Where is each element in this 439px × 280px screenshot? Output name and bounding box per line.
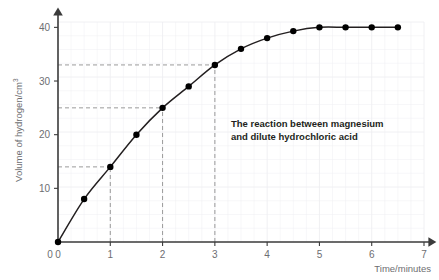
y-tick-label: 20 (39, 129, 51, 140)
x-tick-label: 4 (264, 249, 270, 260)
y-tick-label: 40 (39, 22, 51, 33)
x-tick-label: 3 (212, 249, 218, 260)
data-point-marker (290, 28, 296, 34)
x-tick-label: 6 (369, 249, 375, 260)
y-axis-label: Volume of hydrogen/cm (13, 82, 24, 182)
data-point-marker (81, 196, 87, 202)
x-tick-label: 7 (421, 249, 427, 260)
y-axis-label-superscript: 3 (12, 78, 19, 82)
x-tick-label: 0 (55, 249, 61, 260)
origin-label: 0 (47, 249, 53, 260)
x-tick-label: 5 (317, 249, 323, 260)
y-tick-label: 30 (39, 76, 51, 87)
annotation-line-2: and dilute hydrochloric acid (231, 131, 358, 142)
data-point-marker (395, 24, 401, 30)
x-tick-label: 1 (108, 249, 114, 260)
annotation-line-1: The reaction between magnesium (231, 118, 384, 129)
data-point-marker (238, 46, 244, 52)
y-tick-label: 10 (39, 183, 51, 194)
x-tick-label: 2 (160, 249, 166, 260)
volume-of-hydrogen-vs-time-line-chart: 01234567102030400 Time/minutes Volume of… (0, 0, 439, 280)
data-point-marker (55, 239, 61, 245)
y-axis-label-group: Volume of hydrogen/cm 3 (12, 78, 24, 182)
chart-container: 01234567102030400 Time/minutes Volume of… (0, 0, 439, 280)
x-axis-label: Time/minutes (374, 263, 431, 274)
data-point-marker (186, 83, 192, 89)
data-point-marker (316, 24, 322, 30)
data-point-marker (342, 24, 348, 30)
data-point-marker (264, 35, 270, 41)
data-point-marker (212, 62, 218, 68)
data-point-marker (107, 164, 113, 170)
data-point-marker (369, 24, 375, 30)
data-point-marker (133, 131, 139, 137)
data-point-marker (159, 105, 165, 111)
